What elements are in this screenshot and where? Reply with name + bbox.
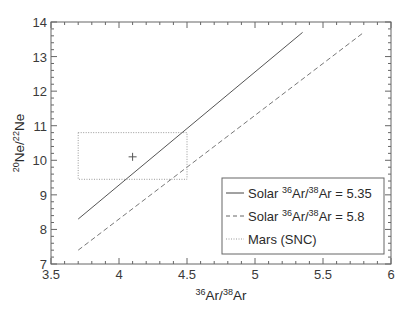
y-tick-label: 14 [33,15,47,30]
x-tick-labels: 3.544.555.56 [42,267,395,282]
x-tick-label: 6 [387,267,394,282]
y-tick-label: 8 [40,222,47,237]
x-tick-label: 5.5 [314,267,332,282]
y-tick-labels: 7891011121314 [33,15,47,272]
y-tick-label: 11 [34,119,48,134]
y-axis-title: 20Ne/22Ne [11,114,27,172]
x-tick-label: 4.5 [178,267,196,282]
y-tick-label: 9 [40,188,47,203]
chart: 3.544.555.56 7891011121314 36Ar/38Ar 20N… [0,0,407,315]
legend-label-mars: Mars (SNC) [248,232,317,247]
y-tick-label: 13 [33,50,47,65]
legend: Solar 36Ar/38Ar = 5.35 Solar 36Ar/38Ar =… [222,178,384,254]
y-tick-label: 12 [33,84,47,99]
y-tick-label: 10 [33,153,47,168]
x-axis-title: 36Ar/38Ar [196,287,247,303]
x-tick-label: 5 [251,267,258,282]
legend-label-solar-58: Solar 36Ar/38Ar = 5.8 [248,208,365,224]
y-tick-label: 7 [40,257,47,272]
x-tick-label: 4 [115,267,122,282]
